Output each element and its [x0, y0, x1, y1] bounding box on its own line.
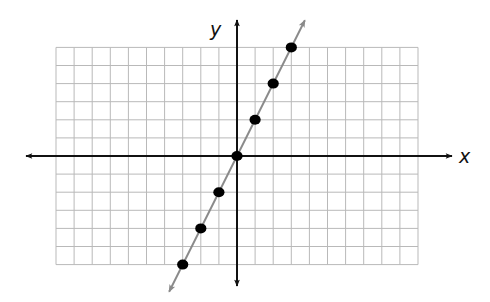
axes: x y — [26, 18, 471, 286]
data-point — [286, 42, 297, 52]
x-axis-label: x — [458, 145, 471, 167]
data-point — [250, 115, 261, 125]
data-point — [195, 223, 206, 233]
y-axis-label: y — [209, 18, 222, 40]
data-point — [213, 187, 224, 197]
data-point — [268, 79, 279, 89]
data-point — [177, 260, 188, 270]
coordinate-plane: x y — [0, 0, 490, 302]
data-point — [231, 151, 242, 161]
